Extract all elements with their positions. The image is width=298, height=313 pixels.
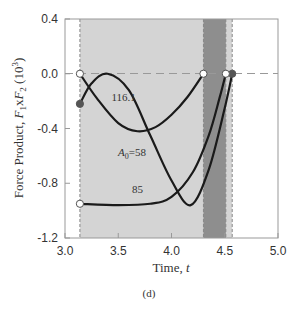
y-tick-label: -0.4 [37,122,58,136]
x-axis-label: Time, t [152,260,189,275]
shaded-region [203,19,225,238]
x-tick-label: 5.0 [270,244,287,258]
y-axis-label: Force Product, F1xF2 (103) [10,58,28,199]
y-tick-label: -1.2 [37,231,58,245]
open-circle-marker [222,70,229,77]
x-tick-label: 4.0 [163,244,180,258]
series-annotation: 116.1 [111,91,135,103]
x-tick-label: 4.5 [216,244,233,258]
x-tick-label: 3.0 [57,244,74,258]
y-tick-label: 0.4 [41,12,58,26]
svg-text:Force Product, F1xF2 (103): Force Product, F1xF2 (103) [10,58,28,199]
y-tick-label: 0.0 [41,67,58,81]
y-tick-label: -0.8 [37,176,58,190]
x-tick-label: 3.5 [110,244,127,258]
figure-caption: (d) [143,287,156,300]
chart: 3.03.54.04.55.00.40.0-0.4-0.8-1.2 116.1A… [0,0,298,313]
series-annotation: 85 [132,183,144,195]
open-circle-marker [76,200,83,207]
open-circle-marker [76,70,83,77]
open-circle-marker [200,70,207,77]
filled-circle-marker [76,100,83,107]
